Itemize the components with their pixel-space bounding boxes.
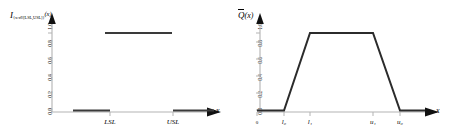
fuzzy-plot-svg (225, 0, 450, 140)
x-tick-marks (110, 112, 173, 116)
x-axis-arrowhead-icon (425, 108, 439, 117)
indicator-curve (73, 33, 214, 111)
y-tick-marks (256, 33, 260, 110)
x-tick-marks (257, 112, 400, 116)
chart-panel-indicator: I{x:x∈[LSL,USL]}(x) 0.0 0.2 0.4 0.6 0.8 … (0, 0, 225, 140)
y-tick-marks (48, 33, 52, 110)
fuzzy-membership-curve (257, 33, 425, 111)
chart-panel-fuzzy: Q(x) 0.0 0.2 0.4 0.6 0.8 1.0 0 l₀ l₁ u₁ … (225, 0, 450, 140)
indicator-plot-svg (0, 0, 225, 140)
y-axis-arrowhead-icon (256, 13, 264, 24)
x-axis-arrowhead-icon (207, 108, 221, 117)
y-axis-arrowhead-icon (48, 13, 56, 24)
